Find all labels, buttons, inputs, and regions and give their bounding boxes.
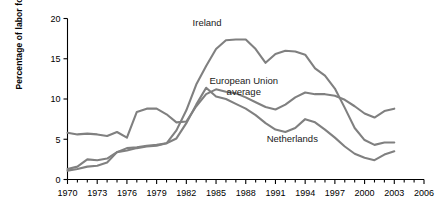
data-series-group [68,39,395,170]
x-tick-label: 1970 [57,188,77,198]
y-tick-label: 0 [55,175,60,185]
x-tick-label: 1988 [236,188,256,198]
y-tick-label: 20 [50,14,60,24]
series-label: Ireland [193,17,222,28]
series-label: Netherlands [267,133,318,144]
y-tick-label: 10 [50,94,60,104]
x-tick-label: 1991 [265,188,285,198]
x-tick-label: 1997 [325,188,345,198]
chart-plot-area: 05101520 1970197319761979198219851988199… [0,0,436,208]
x-tick-label: 1976 [117,188,137,198]
x-tick-label: 2006 [414,188,434,198]
x-tick-label: 1994 [295,188,315,198]
x-tick-label: 1985 [206,188,226,198]
x-tick-label: 1973 [87,188,107,198]
x-axis-ticks: 1970197319761979198219851988199119941997… [57,180,434,198]
x-tick-label: 1979 [147,188,167,198]
y-tick-label: 5 [55,135,60,145]
y-axis-ticks: 05101520 [50,14,67,185]
x-tick-label: 2000 [355,188,375,198]
y-tick-label: 15 [50,54,60,64]
x-tick-label: 1982 [176,188,196,198]
unemployment-line-chart: Percentage of labor force 05101520 19701… [0,0,436,208]
series-label: European Unionaverage [209,75,278,98]
series-line [68,39,395,169]
x-tick-label: 2003 [384,188,404,198]
